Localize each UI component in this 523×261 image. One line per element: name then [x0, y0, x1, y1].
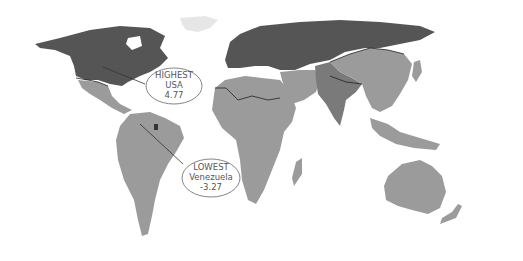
region-south-america: [116, 112, 184, 236]
callout-lowest: LOWEST Venezuela -3.27: [182, 159, 240, 197]
region-australia: [384, 160, 446, 214]
callout-lowest-country: Venezuela: [189, 172, 233, 182]
callout-lowest-label: LOWEST: [193, 162, 229, 172]
callout-lowest-value: -3.27: [200, 182, 222, 192]
region-greenland: [180, 16, 218, 32]
region-new-zealand: [440, 204, 462, 224]
region-japan: [412, 60, 422, 82]
callout-highest-label: HIGHEST: [155, 70, 194, 80]
callout-highest-country: USA: [165, 80, 183, 90]
region-guyana: [154, 124, 158, 130]
region-madagascar: [292, 158, 302, 186]
callout-highest-value: 4.77: [165, 90, 184, 100]
region-north-america: [35, 26, 168, 86]
callout-highest: HIGHEST USA 4.77: [146, 68, 202, 104]
region-southeast-asia: [370, 118, 440, 150]
world-map: HIGHEST USA 4.77 LOWEST Venezuela -3.27: [0, 0, 523, 261]
